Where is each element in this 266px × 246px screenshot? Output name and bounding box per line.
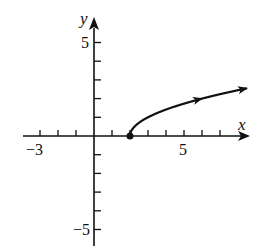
x-axis-label: x	[237, 115, 246, 134]
function-graph: x −3 5 y 5 −5	[0, 0, 266, 246]
y-axis-label: y	[78, 9, 88, 28]
y-axis: y 5 −5	[73, 9, 101, 246]
x-axis: x −3 5	[23, 115, 250, 158]
curve-segment-2	[202, 88, 247, 98]
start-point-dot	[127, 133, 134, 140]
y-tick-label-neg5: −5	[73, 221, 90, 238]
curve-sqrt	[127, 88, 248, 139]
y-tick-label-5: 5	[81, 34, 89, 51]
x-tick-label-5: 5	[179, 141, 187, 158]
x-tick-label-neg3: −3	[26, 141, 43, 158]
